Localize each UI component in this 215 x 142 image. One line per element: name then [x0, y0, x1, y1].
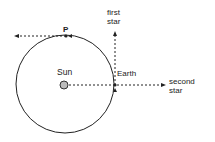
label-earth: Earth [117, 69, 136, 78]
sun [60, 81, 68, 89]
label-sun: Sun [57, 68, 72, 77]
label-p: P [63, 25, 68, 34]
arrowhead-first-star [113, 31, 117, 36]
arrowhead-second-star [161, 83, 166, 87]
label-first-star: first star [107, 8, 120, 26]
point-earth [113, 83, 116, 86]
point-p [64, 34, 67, 37]
orbit-direction-arrow-top [68, 34, 72, 38]
label-second-star: second star [169, 77, 195, 95]
arrowhead-p-tangent [14, 34, 19, 38]
